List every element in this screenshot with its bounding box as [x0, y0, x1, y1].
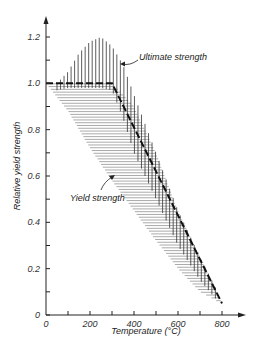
- y-tick-label: 0.8: [27, 125, 40, 135]
- x-tick-label: 800: [214, 319, 229, 329]
- y-tick-label: 0.2: [27, 264, 40, 274]
- y-axis-title: Relative yield strength: [12, 122, 22, 211]
- yield-arrow: [101, 177, 112, 190]
- y-tick-label: 1.0: [27, 78, 40, 88]
- chart: 00.20.40.60.81.01.2 0200400600800 Temper…: [0, 0, 258, 354]
- y-tick-label: 0.6: [27, 171, 40, 181]
- x-axis-title: Temperature (°C): [111, 326, 180, 336]
- y-axis: 00.20.40.60.81.01.2: [27, 16, 50, 320]
- x-tick-label: 200: [81, 319, 97, 329]
- y-tick-label: 1.2: [27, 32, 40, 42]
- ultimate-strength-label: Ultimate strength: [139, 52, 207, 62]
- x-tick-label: 0: [43, 319, 48, 329]
- y-tick-label: 0.4: [27, 217, 40, 227]
- ultimate-strength-band: [57, 38, 215, 299]
- yield-strength-label: Yield strength: [70, 193, 125, 203]
- y-tick-label: 0: [35, 310, 40, 320]
